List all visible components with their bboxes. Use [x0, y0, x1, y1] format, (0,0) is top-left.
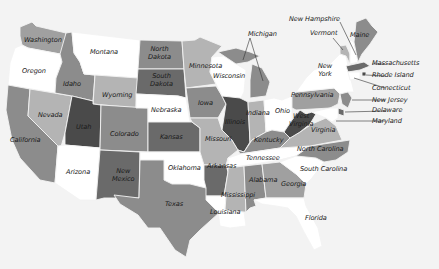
- label-tennessee: Tennessee: [246, 155, 280, 163]
- label-wisconsin: Wisconsin: [213, 73, 245, 81]
- label-virginia: Virginia: [311, 127, 335, 135]
- label-kansas: Kansas: [160, 134, 183, 142]
- label-oklahoma: Oklahoma: [168, 165, 201, 173]
- state-maine[interactable]: [354, 18, 378, 62]
- label-new-hampshire: New Hampshire: [289, 16, 340, 24]
- label-washington: Washington: [24, 37, 62, 45]
- label-illinois: Illinois: [225, 119, 245, 127]
- label-montana: Montana: [90, 49, 118, 57]
- state-florida[interactable]: [254, 198, 322, 250]
- label-new-mexico: NewMexico: [112, 168, 135, 183]
- label-north-dakota: NorthDakota: [148, 46, 171, 61]
- state-new-jersey[interactable]: [340, 92, 352, 108]
- label-georgia: Georgia: [281, 181, 306, 189]
- label-west-virginia-line2: Virginia: [289, 120, 313, 128]
- label-utah: Utah: [76, 124, 91, 132]
- label-west-virginia: WestVirginia: [289, 113, 313, 128]
- label-texas: Texas: [165, 201, 183, 209]
- label-nevada: Nevada: [38, 112, 63, 120]
- label-oregon: Oregon: [22, 68, 46, 76]
- label-ohio: Ohio: [275, 108, 290, 116]
- label-pennsylvania: Pennsylvania: [291, 92, 333, 100]
- label-maryland: Maryland: [372, 118, 402, 126]
- label-nebraska: Nebraska: [151, 107, 181, 115]
- label-rhode-island: Rhode Island: [372, 72, 414, 80]
- state-delaware[interactable]: [338, 108, 344, 116]
- label-indiana: Indiana: [246, 110, 270, 118]
- label-delaware: Delaware: [372, 107, 402, 115]
- label-maine: Maine: [350, 32, 369, 40]
- label-arizona: Arizona: [66, 169, 90, 177]
- label-wyoming: Wyoming: [102, 92, 132, 100]
- label-new-york: NewYork: [318, 63, 332, 78]
- state-rhode-island[interactable]: [362, 72, 366, 76]
- label-mississippi: Mississippi: [221, 192, 255, 200]
- label-arkansas: Arkansas: [207, 163, 236, 171]
- label-michigan: Michigan: [248, 31, 277, 39]
- label-connecticut: Connecticut: [372, 85, 410, 93]
- label-north-dakota-line2: Dakota: [148, 53, 171, 61]
- label-kentucky: Kentucky: [254, 137, 284, 145]
- label-alabama: Alabama: [249, 177, 277, 185]
- label-new-mexico-line2: Mexico: [112, 175, 135, 183]
- state-connecticut[interactable]: [348, 72, 360, 80]
- label-florida: Florida: [305, 215, 327, 223]
- label-idaho: Idaho: [63, 81, 81, 89]
- label-south-dakota: SouthDakota: [150, 73, 173, 88]
- label-california: California: [10, 137, 40, 145]
- label-vermont: Vermont: [310, 30, 337, 38]
- label-north-carolina: North Carolina: [297, 146, 343, 154]
- label-missouri: Missouri: [205, 136, 231, 144]
- label-louisiana: Louisiana: [210, 209, 240, 217]
- state-michigan-lower[interactable]: [250, 64, 270, 98]
- label-new-jersey: New Jersey: [372, 97, 408, 105]
- label-south-carolina: South Carolina: [300, 166, 347, 174]
- label-colorado: Colorado: [110, 131, 139, 139]
- label-new-york-line2: York: [318, 70, 331, 78]
- state-colorado[interactable]: [100, 105, 148, 152]
- label-south-dakota-line2: Dakota: [150, 80, 173, 88]
- label-minnesota: Minnesota: [189, 63, 222, 71]
- label-massachusetts: Massachusetts: [372, 60, 419, 68]
- label-iowa: Iowa: [198, 100, 213, 108]
- leader-vermont: [333, 38, 343, 50]
